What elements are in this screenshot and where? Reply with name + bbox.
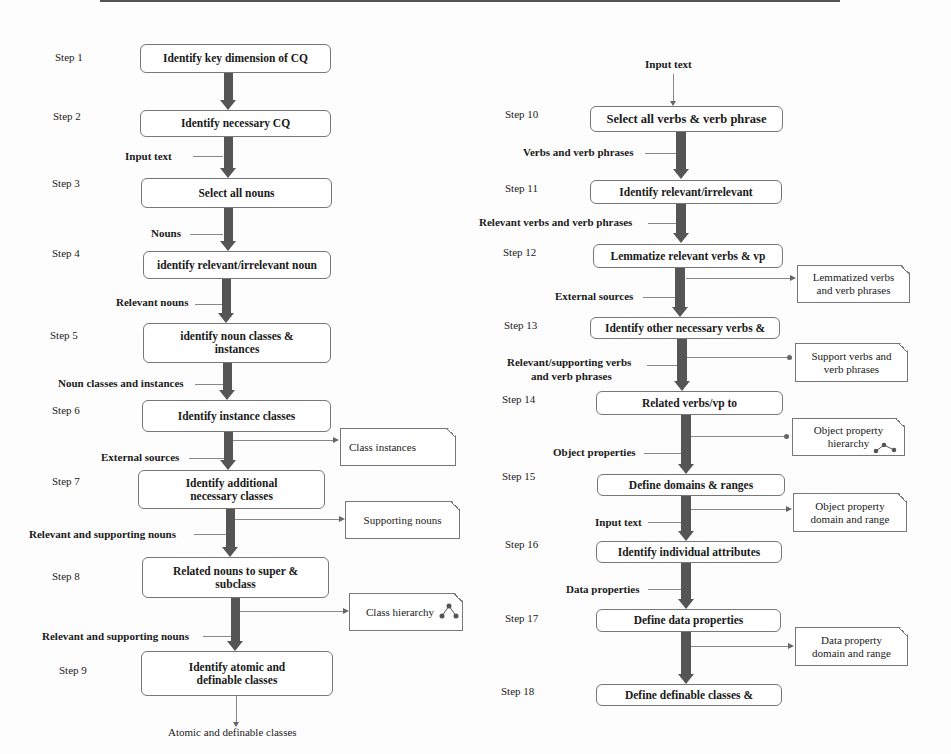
step-label-7: Step 7 bbox=[52, 475, 80, 487]
output-arrow-icon bbox=[343, 608, 349, 614]
process-box-step-17: Define data properties bbox=[596, 609, 781, 632]
final-output-label: Atomic and definable classes bbox=[168, 726, 297, 738]
flow-arrow-head-icon bbox=[678, 531, 694, 541]
flow-arrow-shaft bbox=[224, 73, 233, 101]
process-box-step-3: Select all nouns bbox=[141, 178, 332, 208]
output-doc-supporting-nouns: Supporting nouns bbox=[345, 501, 460, 539]
process-box-step-5: identify noun classes & instances bbox=[143, 323, 331, 363]
step-label-5: Step 5 bbox=[50, 329, 78, 341]
top-input-connector bbox=[673, 74, 674, 102]
output-connector bbox=[691, 436, 786, 437]
output-label: Class hierarchy bbox=[366, 606, 434, 619]
input-connector bbox=[647, 365, 677, 366]
input-connector bbox=[195, 384, 223, 385]
output-label-line2: domain and range bbox=[812, 647, 891, 660]
flow-arrow-head-icon bbox=[678, 674, 694, 684]
input-label-external-sources: External sources bbox=[101, 451, 179, 464]
process-box-step-7: Identify additional necessary classes bbox=[138, 470, 325, 509]
flow-arrow-head-icon bbox=[220, 168, 236, 178]
property-hierarchy-icon bbox=[873, 440, 897, 452]
process-box-step-9: Identify atomic and definable classes bbox=[141, 651, 333, 696]
flow-arrow-head-icon bbox=[219, 390, 235, 400]
flow-arrow-shaft bbox=[681, 496, 691, 532]
flow-arrow-shaft bbox=[681, 563, 691, 600]
input-connector bbox=[644, 453, 681, 454]
output-connector-dot-icon bbox=[784, 434, 789, 439]
step-label-17: Step 17 bbox=[505, 612, 538, 624]
input-label-input-text: Input text bbox=[125, 150, 172, 163]
output-label-line2: domain and range bbox=[811, 513, 890, 526]
input-connector bbox=[645, 153, 676, 154]
flow-arrow-shaft bbox=[675, 268, 685, 308]
output-label-line2: and verb phrases bbox=[817, 284, 891, 297]
process-box-step-4: identify relevant/irrelevant noun bbox=[143, 251, 331, 279]
step-label-12: Step 12 bbox=[503, 246, 536, 258]
input-label-external-sources: External sources bbox=[555, 290, 633, 303]
process-box-step-15: Define domains & ranges bbox=[597, 474, 785, 496]
input-label-relevant-verbs: Relevant verbs and verb phrases bbox=[479, 216, 632, 229]
flow-arrow-head-icon bbox=[220, 100, 236, 110]
output-label-line1: Data property bbox=[821, 634, 882, 647]
process-box-step-8: Related nouns to super & subclass bbox=[142, 557, 329, 598]
step-label-9: Step 9 bbox=[59, 664, 87, 676]
step-label-2: Step 2 bbox=[53, 110, 81, 122]
flow-arrow-head-icon bbox=[218, 313, 234, 323]
input-connector bbox=[189, 458, 224, 459]
step-label-10: Step 10 bbox=[505, 108, 538, 120]
output-label-line2: hierarchy bbox=[828, 437, 870, 450]
process-box-step-14: Related verbs/vp to bbox=[596, 391, 783, 415]
process-box-step-10: Select all verbs & verb phrase bbox=[590, 106, 783, 132]
input-label-data-properties: Data properties bbox=[566, 583, 639, 596]
output-arrow-icon bbox=[788, 643, 794, 649]
flow-arrow-head-icon bbox=[678, 464, 694, 474]
flow-arrow-shaft bbox=[681, 632, 691, 675]
input-label-relevant-supporting-verbs: Relevant/supporting verbs bbox=[507, 356, 631, 369]
input-connector bbox=[193, 156, 223, 157]
flow-arrow-shaft bbox=[224, 137, 233, 169]
input-label-object-properties: Object properties bbox=[553, 446, 636, 459]
input-label-nouns: Nouns bbox=[151, 227, 181, 240]
step-label-14: Step 14 bbox=[502, 393, 535, 405]
step-label-8: Step 8 bbox=[52, 570, 80, 582]
flow-arrow-shaft bbox=[224, 208, 233, 242]
input-connector bbox=[648, 522, 681, 523]
input-label-relevant-supporting-nouns: Relevant and supporting nouns bbox=[29, 528, 176, 541]
input-connector bbox=[648, 589, 681, 590]
step-label-15: Step 15 bbox=[502, 470, 535, 482]
input-connector bbox=[643, 297, 675, 298]
output-connector bbox=[691, 646, 789, 647]
output-label-line1: Support verbs and bbox=[811, 350, 891, 363]
process-box-step-18: Define definable classes & bbox=[596, 684, 782, 706]
flow-arrow-head-icon bbox=[678, 599, 694, 609]
step-label-16: Step 16 bbox=[505, 538, 538, 550]
step-label-6: Step 6 bbox=[52, 404, 80, 416]
process-box-step-12: Lemmatize relevant verbs & vp bbox=[593, 244, 783, 268]
process-box-step-16: Identify individual attributes bbox=[596, 541, 782, 563]
input-label-relevant-nouns: Relevant nouns bbox=[116, 296, 188, 309]
step-label-11: Step 11 bbox=[505, 182, 538, 194]
input-label-input-text: Input text bbox=[595, 516, 642, 529]
output-connector bbox=[235, 519, 339, 520]
input-label-noun-classes: Noun classes and instances bbox=[58, 377, 184, 390]
flow-arrow-head-icon bbox=[672, 307, 688, 317]
step-label-3: Step 3 bbox=[52, 177, 80, 189]
flow-arrow-head-icon bbox=[673, 169, 689, 179]
flow-arrow-shaft bbox=[681, 415, 691, 465]
flow-arrow-head-icon bbox=[220, 241, 236, 251]
process-box-step-11: Identify relevant/irrelevant bbox=[590, 180, 782, 204]
hierarchy-icon bbox=[439, 603, 459, 619]
input-label-relevant-supporting-nouns-2: Relevant and supporting nouns bbox=[42, 630, 189, 643]
output-doc-object-property-domain-range: Object property domain and range bbox=[793, 493, 907, 532]
flowchart-canvas: Step 1 Step 2 Step 3 Step 4 Step 5 Step … bbox=[0, 0, 951, 754]
output-label-line1: Lemmatized verbs bbox=[813, 271, 895, 284]
flow-arrow-shaft bbox=[222, 279, 231, 314]
flow-arrow-shaft bbox=[676, 204, 686, 234]
output-label-line1: Object property bbox=[814, 424, 883, 437]
input-connector bbox=[203, 636, 231, 637]
output-connector bbox=[240, 611, 343, 612]
flow-arrow-head-icon bbox=[222, 547, 238, 557]
input-connector bbox=[190, 234, 223, 235]
output-arrow-icon bbox=[339, 516, 345, 522]
flow-arrow-shaft bbox=[677, 339, 687, 382]
flow-arrow-shaft bbox=[676, 132, 686, 170]
